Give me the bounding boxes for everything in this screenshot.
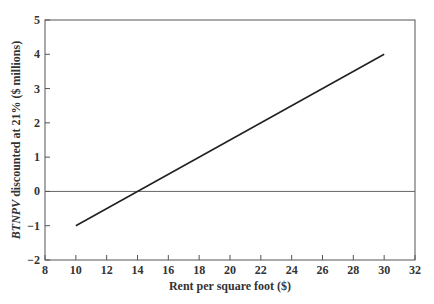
y-tick-label: 2 [34, 116, 40, 130]
y-tick-label: 0 [34, 184, 40, 198]
x-tick-label: 24 [286, 263, 298, 277]
y-tick-label: 1 [34, 150, 40, 164]
x-tick-label: 32 [409, 263, 421, 277]
y-axis-title-rest: discounted at 21% ($ millions) [9, 41, 23, 200]
x-tick-label: 20 [224, 263, 236, 277]
x-axis-title: Rent per square foot ($) [169, 279, 291, 293]
chart: 8101214161820222426283032−2−1012345 Rent… [0, 0, 434, 304]
y-tick-label: 3 [34, 82, 40, 96]
x-tick-label: 28 [347, 263, 359, 277]
y-tick-label: 5 [34, 13, 40, 27]
x-tick-label: 18 [193, 263, 205, 277]
x-tick-label: 22 [255, 263, 267, 277]
x-tick-label: 10 [70, 263, 82, 277]
x-tick-label: 26 [317, 263, 329, 277]
y-axis-title-italic: BTNPV [9, 199, 23, 240]
y-tick-label: −2 [27, 253, 40, 267]
x-tick-label: 30 [378, 263, 390, 277]
plot-area: 8101214161820222426283032−2−1012345 [27, 13, 421, 277]
x-tick-label: 16 [162, 263, 174, 277]
y-axis-title: BTNPV discounted at 21% ($ millions) [9, 41, 23, 240]
y-tick-label: 4 [34, 47, 40, 61]
x-tick-label: 14 [132, 263, 144, 277]
series-line-btnpv [76, 54, 384, 225]
x-tick-label: 12 [101, 263, 113, 277]
y-tick-label: −1 [27, 219, 40, 233]
x-tick-label: 8 [42, 263, 48, 277]
